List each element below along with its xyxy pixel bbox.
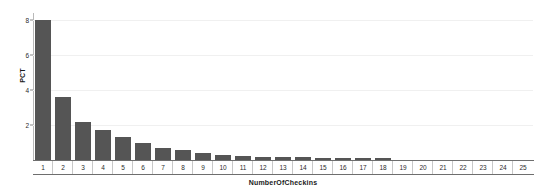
x-tick-label: 4 <box>93 161 113 174</box>
x-tick-label: 22 <box>453 161 473 174</box>
y-tick-label: 8 <box>25 17 29 24</box>
x-tick-label: 14 <box>293 161 313 174</box>
bar-slot <box>53 13 73 160</box>
x-axis-title: NumberOfCheckins <box>33 179 533 186</box>
bar-slot <box>133 13 153 160</box>
x-tick-label: 23 <box>473 161 493 174</box>
x-tick-label: 16 <box>333 161 353 174</box>
x-tick-label: 17 <box>353 161 373 174</box>
bar-slot <box>273 13 293 160</box>
x-tick-label: 2 <box>53 161 73 174</box>
y-tick-label: 4 <box>25 87 29 94</box>
y-axis-title: PCT <box>19 63 26 89</box>
x-tick-label: 25 <box>513 161 533 174</box>
y-tick-label: 6 <box>25 52 29 59</box>
x-tick-label: 18 <box>373 161 393 174</box>
x-tick-label: 5 <box>113 161 133 174</box>
bar-slot <box>73 13 93 160</box>
bar-slot <box>453 13 473 160</box>
x-tick-label: 13 <box>273 161 293 174</box>
bar-chart-figure: PCT 2468 1234567891011121314151617181920… <box>0 0 548 196</box>
bar <box>55 97 71 160</box>
x-axis-tick-labels: 1234567891011121314151617181920212223242… <box>33 161 533 174</box>
x-tick-label: 15 <box>313 161 333 174</box>
bar <box>95 130 111 160</box>
bar-slot <box>513 13 533 160</box>
bar-slot <box>433 13 453 160</box>
x-axis-tick-baseline <box>33 174 534 175</box>
bar <box>155 148 171 160</box>
bar <box>175 150 191 160</box>
bar-slot <box>293 13 313 160</box>
x-tick-label: 19 <box>393 161 413 174</box>
bar-slot <box>193 13 213 160</box>
bar-slot <box>313 13 333 160</box>
x-tick-label: 12 <box>253 161 273 174</box>
bar <box>115 137 131 160</box>
bar <box>75 122 91 161</box>
x-tick-label: 10 <box>213 161 233 174</box>
bars-layer <box>33 13 533 160</box>
x-tick-label: 20 <box>413 161 433 174</box>
x-tick-label: 24 <box>493 161 513 174</box>
y-tick-label: 2 <box>25 122 29 129</box>
bar-slot <box>253 13 273 160</box>
bar-slot <box>173 13 193 160</box>
bar-slot <box>413 13 433 160</box>
bar <box>195 153 211 160</box>
bar-slot <box>233 13 253 160</box>
bar-slot <box>113 13 133 160</box>
x-tick-label: 6 <box>133 161 153 174</box>
x-tick-label: 8 <box>173 161 193 174</box>
bar-slot <box>373 13 393 160</box>
x-tick-label: 3 <box>73 161 93 174</box>
x-tick-label: 7 <box>153 161 173 174</box>
bar-slot <box>213 13 233 160</box>
bar-slot <box>333 13 353 160</box>
bar-slot <box>493 13 513 160</box>
bar-slot <box>353 13 373 160</box>
bar-slot <box>153 13 173 160</box>
x-tick-label: 9 <box>193 161 213 174</box>
bar-slot <box>473 13 493 160</box>
bar-slot <box>93 13 113 160</box>
x-tick-label: 21 <box>433 161 453 174</box>
bar-slot <box>393 13 413 160</box>
plot-area: 2468 <box>33 13 533 160</box>
bar <box>35 20 51 160</box>
x-tick-label: 1 <box>33 161 53 174</box>
x-tick-label: 11 <box>233 161 253 174</box>
bar <box>135 143 151 160</box>
bar-slot <box>33 13 53 160</box>
